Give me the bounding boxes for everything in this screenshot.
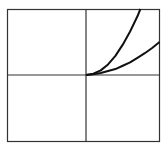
series-line-1 bbox=[86, 42, 160, 75]
series-line-0 bbox=[86, 9, 140, 75]
line-chart bbox=[0, 0, 168, 146]
series-layer bbox=[86, 9, 160, 75]
